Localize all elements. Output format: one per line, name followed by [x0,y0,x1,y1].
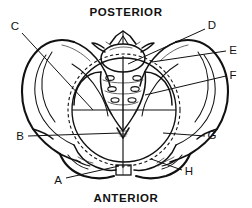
callout-letter-g: G [208,129,217,141]
callout-letter-d: D [208,19,216,31]
callout-letter-f: F [229,69,236,81]
posterior-label: POSTERIOR [89,6,162,18]
leader-line-f [145,76,226,95]
leader-line-e [152,51,226,62]
callout-leader-lines [22,29,226,178]
left-ilium [22,40,110,162]
callout-letter-b: B [16,130,24,142]
callout-letter-a: A [54,174,62,186]
anterior-label: ANTERIOR [94,192,159,204]
lumbar-vertebra [92,31,154,52]
leader-line-b [28,133,120,136]
pelvis-diagram-svg: POSTERIOR ANTERIOR [0,0,252,208]
leader-line-d [128,29,205,64]
callout-letter-c: C [11,20,19,32]
callout-letter-e: E [229,44,237,56]
anatomy-figure: POSTERIOR ANTERIOR [0,0,252,208]
right-ilium [140,40,228,162]
callout-letter-h: H [185,165,193,177]
